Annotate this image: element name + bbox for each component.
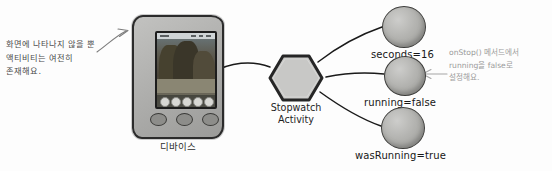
right-annotation-line-2: running을 false로 [449,60,549,73]
dock-app-icon[interactable] [160,97,170,107]
state-node-seconds[interactable] [382,6,426,48]
dock-app-icon[interactable] [182,97,192,107]
left-annotation-line-2: 액티비티는 여전히 [6,52,118,66]
device-label: 디바이스 [126,139,230,153]
dock-app-icon[interactable] [171,97,181,107]
hexagon-shape [268,54,324,102]
device-screen [155,31,217,109]
diagram-canvas: 화면에 나타나지 않을 뿐 액티비티는 여전히 존재해요. [0,0,552,171]
stopwatch-activity-node[interactable]: Stopwatch Activity [268,54,332,124]
dock-app-icon[interactable] [204,97,214,107]
right-annotation-note: onStop() 메서드에서 running을 false로 설정해요. [449,47,549,85]
hardware-button-menu[interactable] [202,113,219,126]
left-annotation-note: 화면에 나타나지 않을 뿐 액티비티는 여전히 존재해요. [6,38,118,79]
dock-app-icon[interactable] [193,97,203,107]
device-body [132,15,224,139]
state-node-wasrunning-label: wasRunning=true [355,150,446,161]
right-annotation-line-1: onStop() 메서드에서 [449,47,549,60]
hardware-button-back[interactable] [150,113,167,126]
hardware-button-row [150,113,218,129]
app-dock [157,95,215,107]
state-node-wasrunning[interactable] [381,107,425,149]
left-annotation-line-3: 존재해요. [6,65,118,79]
right-annotation-line-3: 설정해요. [449,72,549,85]
wallpaper-mountain [157,39,215,93]
stopwatch-activity-label: Stopwatch Activity [260,102,332,126]
state-node-running[interactable] [384,56,426,96]
activity-label-line-2: Activity [260,114,332,126]
left-annotation-line-1: 화면에 나타나지 않을 뿐 [6,38,118,52]
activity-to-running-link [326,73,384,77]
device-illustration: 디바이스 [126,13,230,141]
activity-label-line-1: Stopwatch [260,102,332,114]
hardware-button-home[interactable] [176,113,193,126]
